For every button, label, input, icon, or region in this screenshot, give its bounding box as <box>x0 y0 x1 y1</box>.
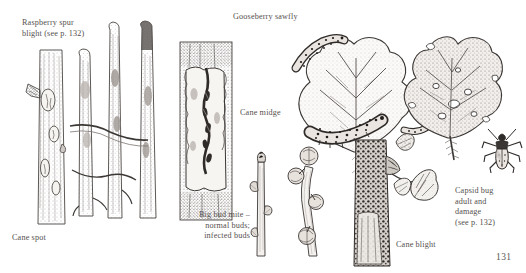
figure-normal-buds-stem <box>248 148 274 258</box>
figure-cane-midge-cane <box>176 42 238 220</box>
label-cane-spot: Cane spot <box>12 233 46 244</box>
label-cane-midge: Cane midge <box>240 108 281 119</box>
label-gooseberry-sawfly: Gooseberry sawfly <box>233 12 298 23</box>
figure-raspberry-spur-blight-canes <box>70 20 166 220</box>
figure-capsid-bug-adult <box>482 128 522 174</box>
illustration-plate: Raspberry spur blight (see p. 132) Goose… <box>0 0 526 273</box>
label-capsid-bug: Capsid bug adult and damage (see p. 132) <box>455 186 495 228</box>
page-number: 131 <box>496 252 511 262</box>
